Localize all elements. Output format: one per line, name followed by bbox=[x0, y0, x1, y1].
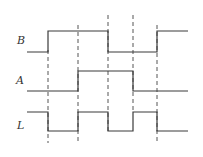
signal-l-label: L bbox=[17, 119, 24, 132]
timing-diagram bbox=[0, 0, 203, 157]
signal-l-waveform bbox=[27, 112, 188, 131]
signal-a-label: A bbox=[16, 74, 24, 87]
signal-b-label: B bbox=[17, 34, 25, 47]
signal-b-waveform bbox=[27, 31, 188, 52]
